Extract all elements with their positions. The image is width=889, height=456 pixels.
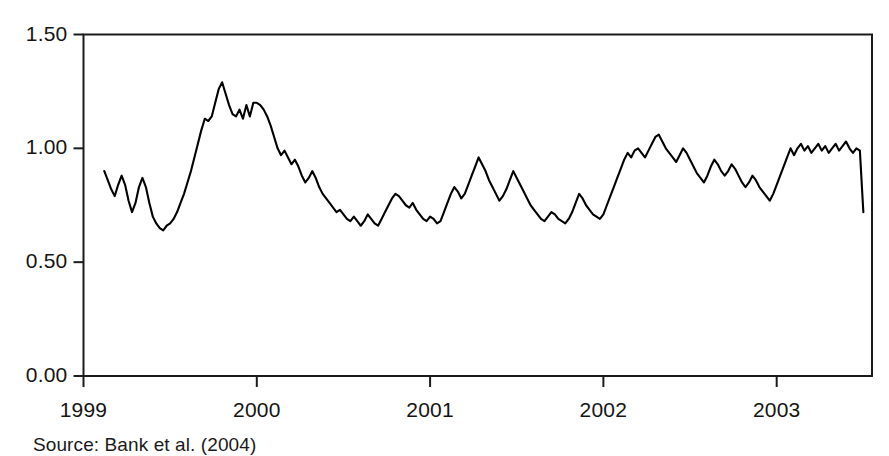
- y-tick-label: 1.00: [26, 135, 68, 159]
- plot-frame: [84, 35, 873, 377]
- x-tick-label: 2002: [563, 398, 643, 422]
- plot-border: [84, 35, 873, 377]
- y-tick-label: 1.50: [26, 22, 68, 46]
- x-tick-label: 2003: [737, 398, 817, 422]
- x-tick-label: 1999: [44, 398, 124, 422]
- y-tick-label: 0.50: [26, 249, 68, 273]
- x-tick-label: 2001: [390, 398, 470, 422]
- source-note: Source: Bank et al. (2004): [33, 434, 256, 456]
- axis-tick-marks: [74, 35, 777, 388]
- series-line: [104, 82, 863, 230]
- data-series-group: [104, 82, 863, 230]
- x-tick-label: 2000: [217, 398, 297, 422]
- y-tick-label: 0.00: [26, 363, 68, 387]
